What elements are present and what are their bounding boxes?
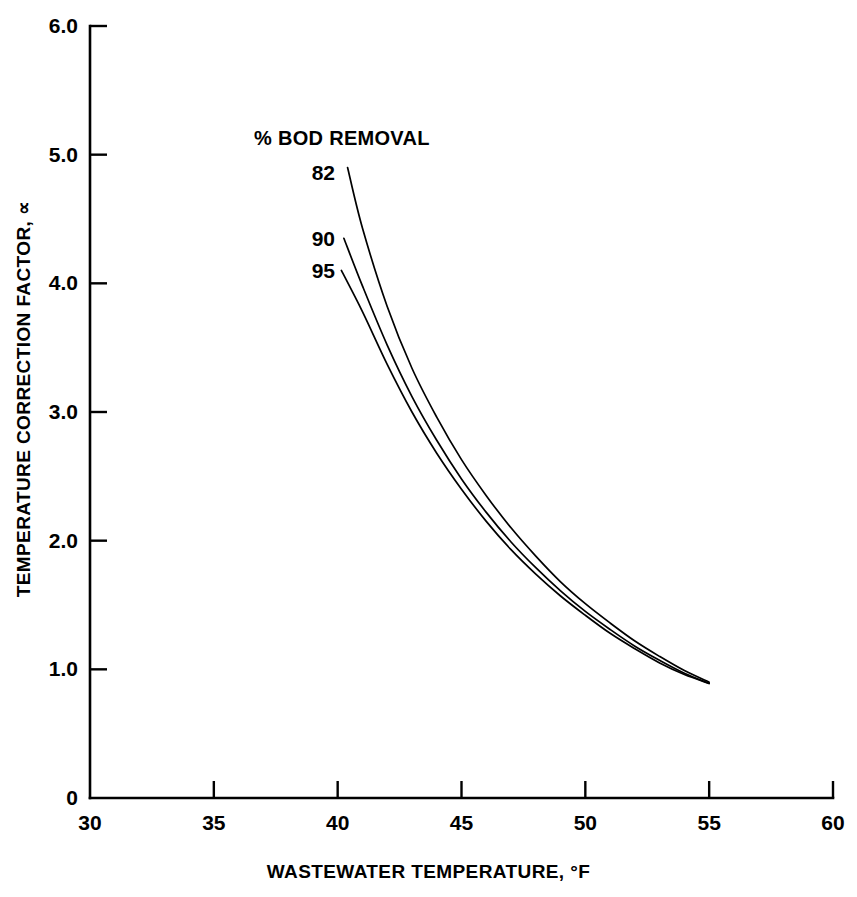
x-axis-tick-label: 50	[555, 812, 615, 833]
y-axis-title-container: TEMPERATURE CORRECTION FACTOR, ∝	[0, 0, 46, 797]
series-curve-90	[344, 238, 709, 683]
x-axis-ticks	[214, 781, 833, 798]
series-label-90: 90	[287, 228, 335, 249]
x-axis-tick-label: 55	[679, 812, 739, 833]
chart-figure: 6.05.04.03.02.01.00 30354045505560 TEMPE…	[0, 0, 857, 897]
series-label-82: 82	[287, 162, 335, 183]
x-axis-tick-label: 45	[432, 812, 492, 833]
x-axis-tick-label: 35	[184, 812, 244, 833]
x-axis-tick-label: 40	[308, 812, 368, 833]
x-axis-title: WASTEWATER TEMPERATURE, °F	[0, 862, 857, 881]
y-axis-title: TEMPERATURE CORRECTION FACTOR, ∝	[12, 200, 35, 597]
series-label-95: 95	[287, 260, 335, 281]
x-axis-tick-label: 30	[60, 812, 120, 833]
chart-series-group	[341, 168, 709, 684]
legend-title: % BOD REMOVAL	[254, 128, 430, 148]
x-axis-tick-label: 60	[803, 812, 857, 833]
series-curve-82	[348, 168, 710, 683]
y-axis-ticks	[90, 26, 107, 669]
